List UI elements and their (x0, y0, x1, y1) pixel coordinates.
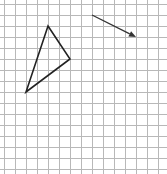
grid-lines (0, 0, 167, 174)
grid-figure (0, 0, 167, 174)
